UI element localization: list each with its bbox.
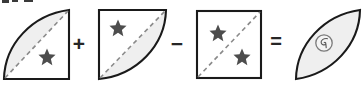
operator-minus: − — [168, 33, 186, 54]
operator-equals: = — [266, 31, 286, 51]
shape-equation-diagram: + − = — [0, 0, 363, 87]
operator-plus: + — [70, 33, 88, 54]
